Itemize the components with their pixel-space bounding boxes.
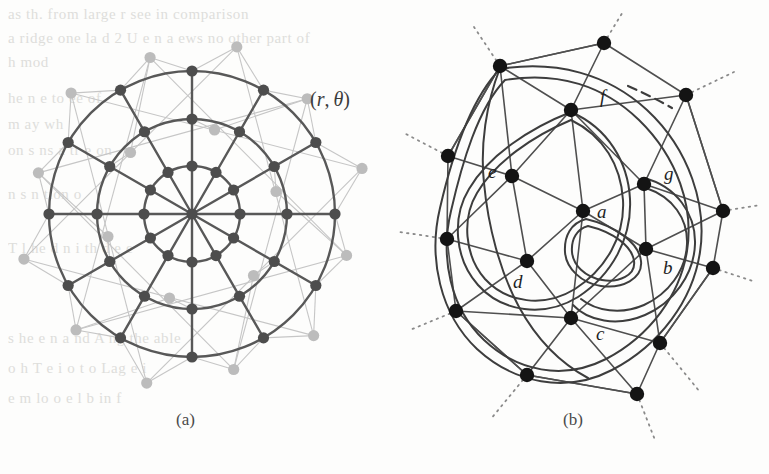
vertex-o4: [706, 261, 720, 275]
vertex-o5: [653, 336, 667, 350]
vertex-c: [564, 311, 578, 325]
vertex-e: [505, 169, 519, 183]
dotted-ray-6: [490, 375, 527, 420]
edge-o3-b: [646, 211, 723, 249]
vertex-label-c: c: [596, 323, 605, 344]
caption-b: (b): [563, 410, 583, 430]
edge-o8-o9: [447, 239, 456, 311]
vertex-o9: [440, 232, 454, 246]
vertex-o10: [441, 149, 455, 163]
edge-o6-o7: [527, 375, 637, 394]
edge-d-e: [512, 176, 527, 261]
edge-o3-o4: [713, 211, 723, 268]
vertex-g: [637, 177, 651, 191]
dotted-ray-9: [404, 133, 448, 156]
vertex-o7: [520, 368, 534, 382]
edge-o7-c: [527, 318, 571, 375]
dotted-ray-4: [660, 343, 700, 392]
vertex-o3: [716, 204, 730, 218]
vertex-o2: [679, 88, 693, 102]
edge-o8-c: [456, 311, 571, 318]
vertex-d: [520, 254, 534, 268]
edge-a-e: [512, 176, 583, 211]
dotted-ray-5: [637, 394, 655, 440]
edge-o2-o3: [686, 95, 723, 211]
vertex-o6: [630, 387, 644, 401]
figure-page: as th. from large r see in comparison a …: [0, 0, 769, 474]
edge-o2-f: [571, 95, 686, 110]
vertex-a: [576, 204, 590, 218]
vertex-label-e: e: [488, 161, 496, 182]
edge-g-b: [644, 184, 646, 249]
edge-o1-o11: [500, 43, 604, 66]
vertex-b: [639, 242, 653, 256]
dotted-external-rays: [400, 10, 760, 440]
edge-e-f: [512, 110, 571, 176]
edge-o4-b: [646, 249, 713, 268]
edge-o11-f: [500, 66, 571, 110]
dotted-ray-7: [410, 311, 456, 330]
edge-f-g: [571, 110, 644, 184]
vertex-f: [564, 103, 578, 117]
vertex-label-b: b: [663, 257, 673, 278]
dotted-ray-1: [686, 72, 734, 95]
vertex-label-d: d: [513, 271, 523, 292]
edge-o4-o5: [660, 268, 713, 343]
edge-a-g: [583, 184, 644, 211]
planar-graph-figure: abcdefg: [0, 0, 769, 474]
vertex-o1: [597, 36, 611, 50]
vertex-label-g: g: [664, 163, 674, 184]
vertex-o11: [493, 59, 507, 73]
vertex-o8: [449, 304, 463, 318]
vertex-label-a: a: [597, 201, 607, 222]
